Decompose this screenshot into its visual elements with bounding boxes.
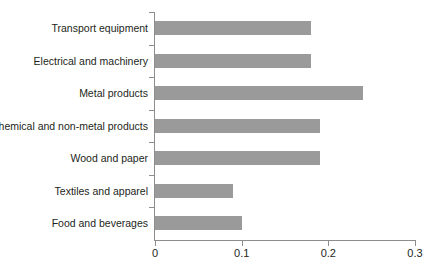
x-axis-tick: [155, 241, 156, 246]
bar: [155, 86, 363, 100]
category-label: Food and beverages: [52, 217, 148, 230]
x-axis-line: [154, 240, 416, 241]
bar-chart: Transport equipment Electrical and machi…: [0, 0, 435, 272]
x-axis-tick: [415, 241, 416, 246]
x-axis-tick-label: 0.3: [407, 247, 422, 260]
chart-row: Wood and paper: [0, 142, 435, 175]
x-axis-tick-label: 0.2: [321, 247, 336, 260]
bar: [155, 54, 311, 68]
bar: [155, 184, 233, 198]
y-axis-tick: [149, 175, 155, 176]
category-label: Electrical and machinery: [34, 54, 148, 67]
category-label: Chemical and non-metal products: [0, 119, 148, 132]
chart-row: Metal products: [0, 77, 435, 110]
bar: [155, 21, 311, 35]
chart-row: Transport equipment: [0, 12, 435, 45]
y-axis-tick: [149, 110, 155, 111]
x-axis-tick: [242, 241, 243, 246]
y-axis-tick: [149, 12, 155, 13]
bar: [155, 151, 320, 165]
x-axis-tick-label: 0: [152, 247, 158, 260]
y-axis-tick: [149, 45, 155, 46]
bar: [155, 216, 242, 230]
category-label: Metal products: [79, 87, 148, 100]
chart-row: Food and beverages: [0, 207, 435, 240]
category-label: Textiles and apparel: [55, 184, 148, 197]
x-axis-tick-label: 0.1: [234, 247, 249, 260]
category-label: Transport equipment: [52, 22, 149, 35]
x-axis-tick: [328, 241, 329, 246]
y-axis-tick: [149, 142, 155, 143]
y-axis-tick: [149, 77, 155, 78]
chart-row: Electrical and machinery: [0, 45, 435, 78]
bar: [155, 119, 320, 133]
chart-row: Chemical and non-metal products: [0, 110, 435, 143]
y-axis-tick: [149, 207, 155, 208]
chart-row: Textiles and apparel: [0, 175, 435, 208]
category-label: Wood and paper: [71, 152, 148, 165]
